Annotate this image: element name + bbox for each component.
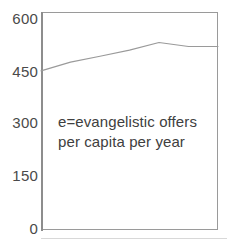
series-definition-annotation: e=evangelistic offers per capita per yea…: [58, 112, 218, 152]
annotation-line-1: e=evangelistic offers: [58, 112, 218, 132]
annotation-line-2: per capita per year: [58, 132, 218, 152]
y-tick-label-0: 0: [2, 221, 38, 236]
series-line-e: [41, 43, 218, 71]
y-tick-label-600: 600: [2, 11, 38, 26]
y-tick-label-150: 150: [2, 168, 38, 183]
y-tick-label-450: 450: [2, 64, 38, 79]
y-tick-label-300: 300: [2, 115, 38, 130]
y-axis: 600 450 300 150 0: [0, 0, 38, 242]
x-axis-line: [41, 238, 227, 239]
line-chart: 600 450 300 150 0 e=evangelistic offers …: [0, 0, 229, 242]
